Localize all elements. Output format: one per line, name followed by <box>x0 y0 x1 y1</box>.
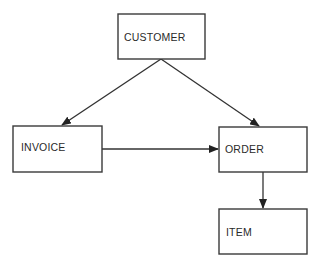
entity-item: ITEM <box>219 209 307 254</box>
entity-customer: CUSTOMER <box>118 14 205 59</box>
entity-label-invoice: INVOICE <box>21 141 66 153</box>
entity-order: ORDER <box>219 127 307 172</box>
entity-invoice: INVOICE <box>13 126 102 172</box>
entity-label-order: ORDER <box>225 143 264 155</box>
arrow-customer-to-order <box>161 59 259 126</box>
entity-label-customer: CUSTOMER <box>124 31 186 43</box>
entity-label-item: ITEM <box>226 226 252 238</box>
arrow-customer-to-invoice <box>62 59 161 125</box>
er-diagram: CUSTOMER INVOICE ORDER ITEM <box>0 0 322 268</box>
